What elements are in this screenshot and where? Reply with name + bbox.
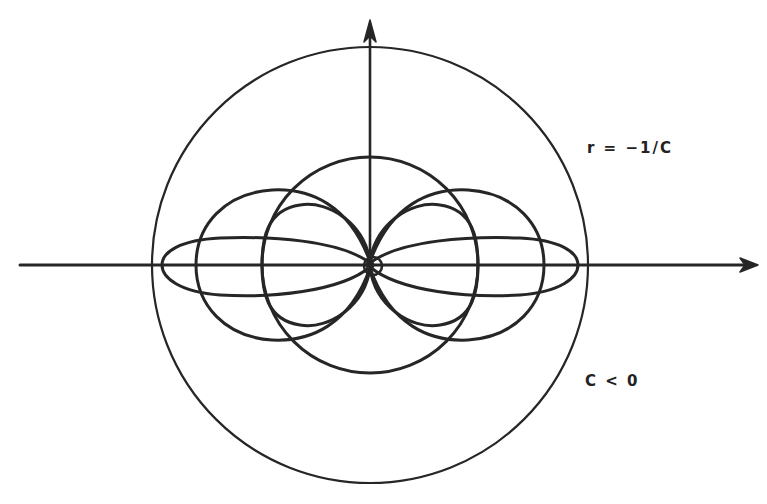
radius-label: r = −1/C [587,139,673,157]
polar-curves-diagram [0,0,767,504]
flat-lobe-left [162,238,370,296]
condition-label: C < 0 [585,372,639,390]
flat-lobe-right [370,238,578,296]
